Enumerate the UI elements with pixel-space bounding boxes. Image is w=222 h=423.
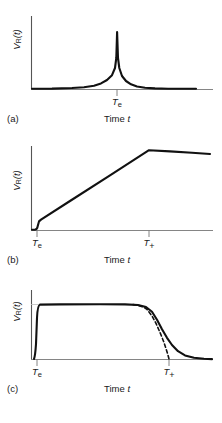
panel-b-tick-label-te: Te bbox=[21, 237, 53, 250]
panel-b-label: (b) bbox=[7, 254, 19, 265]
panel-c-x-axis-label: Time t bbox=[88, 383, 146, 394]
panel-a: VR(t) Te Time t (a) bbox=[0, 0, 222, 141]
panel-a-y-sub: R bbox=[15, 38, 22, 43]
panel-b-y-sub: R bbox=[15, 179, 22, 184]
panel-c-tick-label-tplus: T+ bbox=[153, 366, 185, 380]
panel-a-y-axis-label: VR(t) bbox=[11, 10, 22, 70]
panel-b-y-axis-label: VR(t) bbox=[11, 151, 22, 211]
panel-c-tick-label-te: Te bbox=[21, 366, 53, 379]
figure-three-panel-waveforms: VR(t) Te Time t (a) VR(t) Te T+ bbox=[0, 0, 222, 423]
panel-c-y-var: V bbox=[11, 315, 22, 321]
panel-b: VR(t) Te T+ Time t (b) bbox=[0, 141, 222, 282]
panel-c: VR(t) Te T+ Time t (c) bbox=[0, 282, 222, 423]
panel-b-x-axis-label: Time t bbox=[88, 254, 146, 265]
panel-a-y-arg: (t) bbox=[11, 29, 22, 38]
panel-a-y-var: V bbox=[11, 43, 22, 49]
panel-b-y-arg: (t) bbox=[11, 170, 22, 179]
curve-peak-a bbox=[32, 32, 196, 89]
panel-c-plot bbox=[0, 282, 222, 423]
panel-a-tick-label-te: Te bbox=[101, 96, 133, 109]
panel-c-y-axis-label: VR(t) bbox=[11, 282, 22, 342]
panel-c-label: (c) bbox=[7, 383, 18, 394]
panel-c-y-sub: R bbox=[15, 310, 22, 315]
curve-plateau-solid-c bbox=[34, 304, 212, 359]
panel-a-x-axis-label: Time t bbox=[88, 113, 146, 124]
curve-ramp-b bbox=[32, 150, 210, 230]
panel-a-label: (a) bbox=[7, 113, 19, 124]
panel-b-y-var: V bbox=[11, 184, 22, 190]
panel-b-tick-label-tplus: T+ bbox=[133, 237, 165, 251]
panel-c-y-arg: (t) bbox=[11, 301, 22, 310]
